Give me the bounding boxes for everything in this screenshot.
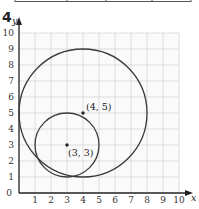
x-tick-label: 2 [48,195,54,205]
y-tick-label: 1 [8,172,14,182]
y-tick-label: 6 [8,92,14,102]
x-tick-label: 6 [112,195,118,205]
y-tick-label: 4 [8,124,14,134]
y-tick-label: 7 [8,76,14,86]
x-tick-label: 9 [160,195,166,205]
y-tick-label: 5 [8,108,14,118]
point-label: (4, 5) [86,101,112,112]
y-tick-label: 10 [3,28,15,38]
y-tick-label: 9 [8,44,14,54]
y-tick-label: 2 [8,156,14,166]
y-tick-label: 8 [8,60,14,70]
grid [19,33,179,193]
coordinate-plane-figure: 4 xy 12345678910123456789100 (4, 5)(3, 3… [0,0,199,209]
origin-label: 0 [6,188,12,198]
y-tick-label: 3 [8,140,14,150]
x-axis-label: x [191,192,197,203]
y-axis-label: y [11,15,18,26]
point-label: (3, 3) [68,147,94,158]
header-table-fragment [15,0,191,2]
x-tick-label: 8 [144,195,150,205]
x-tick-label: 1 [32,195,38,205]
problem-number: 4 [2,9,12,25]
x-tick-label: 5 [96,195,102,205]
x-tick-label: 3 [64,195,70,205]
x-tick-label: 4 [80,195,86,205]
x-tick-label: 10 [173,195,185,205]
x-tick-label: 7 [128,195,134,205]
point-marker [81,111,84,114]
